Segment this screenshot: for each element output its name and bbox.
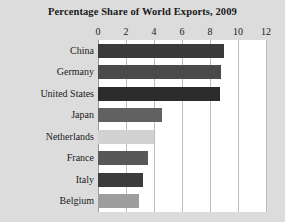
bars-layer: [98, 40, 266, 212]
x-axis-tick-labels: 024681012: [0, 26, 285, 40]
category-label-france: France: [0, 152, 94, 163]
x-tick-label-12: 12: [261, 26, 271, 37]
x-tick-label-0: 0: [96, 26, 101, 37]
bar-france: [98, 151, 148, 165]
bar-belgium: [98, 194, 139, 208]
bar-japan: [98, 108, 162, 122]
bar-china: [98, 44, 224, 58]
category-label-china: China: [0, 45, 94, 56]
bar-germany: [98, 65, 221, 79]
category-label-netherlands: Netherlands: [0, 131, 94, 142]
chart-title: Percentage Share of World Exports, 2009: [0, 6, 285, 17]
category-label-belgium: Belgium: [0, 195, 94, 206]
bar-chart-figure: Percentage Share of World Exports, 2009 …: [0, 0, 285, 222]
x-tick-label-4: 4: [152, 26, 157, 37]
plot-area: [98, 40, 266, 212]
x-tick-label-10: 10: [233, 26, 243, 37]
category-label-japan: Japan: [0, 109, 94, 120]
category-label-italy: Italy: [0, 174, 94, 185]
x-tick-label-8: 8: [208, 26, 213, 37]
x-tick-label-6: 6: [180, 26, 185, 37]
category-label-germany: Germany: [0, 66, 94, 77]
bar-netherlands: [98, 130, 154, 144]
y-axis-category-labels: ChinaGermanyUnited StatesJapanNetherland…: [0, 40, 94, 212]
bar-italy: [98, 173, 143, 187]
x-tick-label-2: 2: [124, 26, 129, 37]
category-label-united-states: United States: [0, 88, 94, 99]
bar-united-states: [98, 87, 220, 101]
gridline-12: [266, 40, 267, 212]
